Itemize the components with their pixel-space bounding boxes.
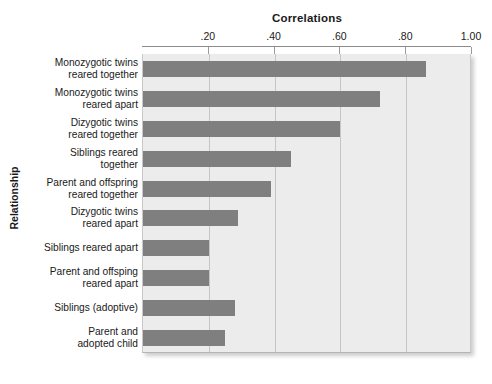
category-label-line: together (22, 159, 138, 171)
bar (143, 210, 238, 226)
category-label: Dizygotic twinsreared together (22, 117, 138, 141)
bar (143, 240, 209, 256)
category-label: Parent and offspingreared apart (22, 266, 138, 290)
x-tick-label: 1.00 (461, 30, 481, 42)
bar-series (143, 54, 470, 352)
bar (143, 121, 340, 137)
category-label-line: Dizygotic twins (22, 206, 138, 218)
bar (143, 91, 380, 107)
category-label-line: Dizygotic twins (22, 117, 138, 129)
x-tick-mark (471, 47, 472, 54)
category-label-line: Siblings reared (22, 147, 138, 159)
category-label: Parent andadopted child (22, 326, 138, 350)
category-label-line: reared apart (22, 278, 138, 290)
category-label-line: Siblings (adoptive) (22, 302, 138, 314)
plot-area (142, 54, 471, 353)
bar (143, 61, 426, 77)
category-label-line: reared together (22, 189, 138, 201)
category-label: Monozygotic twinsreared together (22, 57, 138, 81)
bar (143, 151, 291, 167)
category-label-line: Parent and offspring (22, 177, 138, 189)
y-axis-category-labels: Monozygotic twinsreared togetherMonozygo… (22, 54, 138, 353)
category-label: Dizygotic twinsreared apart (22, 206, 138, 230)
category-label-line: reared together (22, 129, 138, 141)
category-label-line: reared together (22, 69, 138, 81)
category-label-line: reared apart (22, 218, 138, 230)
x-axis-line (142, 46, 471, 47)
x-tick-mark (405, 47, 406, 54)
category-label: Siblings reared apart (22, 242, 138, 254)
category-label-line: Parent and (22, 326, 138, 338)
x-axis-tick-labels: .20.40.60.801.00 (0, 30, 492, 46)
category-label-line: reared apart (22, 99, 138, 111)
bar (143, 181, 271, 197)
bar (143, 270, 209, 286)
x-tick-mark (208, 47, 209, 54)
category-label: Siblings rearedtogether (22, 147, 138, 171)
category-label-line: Monozygotic twins (22, 57, 138, 69)
x-tick-label: .80 (398, 30, 413, 42)
bar (143, 300, 235, 316)
chart-title: Correlations (142, 12, 472, 24)
category-label: Parent and offspringreared together (22, 177, 138, 201)
x-tick-label: .40 (266, 30, 281, 42)
y-axis-title: Relationship (8, 153, 20, 243)
category-label-line: Parent and offsping (22, 266, 138, 278)
x-tick-label: .20 (200, 30, 215, 42)
category-label: Siblings (adoptive) (22, 302, 138, 314)
x-tick-label: .60 (332, 30, 347, 42)
category-label-line: adopted child (22, 338, 138, 350)
x-tick-mark (274, 47, 275, 54)
category-label-line: Monozygotic twins (22, 87, 138, 99)
x-tick-mark (339, 47, 340, 54)
category-label: Monozygotic twinsreared apart (22, 87, 138, 111)
category-label-line: Siblings reared apart (22, 242, 138, 254)
bar (143, 330, 225, 346)
bar-chart: Correlations .20.40.60.801.00 Monozygoti… (0, 0, 492, 384)
